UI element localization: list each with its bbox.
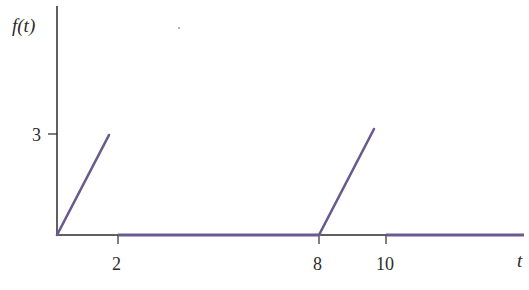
chart-svg: f(t) 3 2 8 10 t xyxy=(0,0,529,290)
y-axis-label: f(t) xyxy=(12,15,35,37)
ramp-segment-1 xyxy=(57,135,109,235)
x-tick-label-2: 2 xyxy=(112,254,121,274)
x-axis-label: t xyxy=(517,250,523,271)
ramp-segment-2 xyxy=(319,129,374,235)
stray-dot xyxy=(178,27,180,29)
y-tick-label-3: 3 xyxy=(32,125,41,145)
x-tick-label-10: 10 xyxy=(376,254,394,274)
x-tick-label-8: 8 xyxy=(313,254,322,274)
